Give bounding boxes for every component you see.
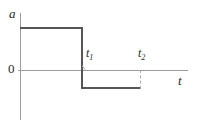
x-axis-line xyxy=(18,70,188,71)
t1-label: t1 xyxy=(86,47,93,62)
x-axis-label: t xyxy=(178,74,182,87)
t2-label: t2 xyxy=(138,47,145,62)
acceleration-time-graph: a 0 t t1 t2 xyxy=(0,0,201,127)
t1-label-subscript: 1 xyxy=(89,53,93,62)
acceleration-step-drop-segment xyxy=(81,27,83,89)
acceleration-positive-segment xyxy=(20,27,83,29)
y-axis-line xyxy=(20,13,21,120)
t2-dashed-dropline xyxy=(140,70,141,89)
acceleration-negative-segment xyxy=(81,87,141,89)
t1-tick-mark xyxy=(82,63,90,71)
y-axis-label: a xyxy=(9,7,16,20)
t2-label-subscript: 2 xyxy=(141,53,145,62)
origin-label: 0 xyxy=(8,62,15,75)
